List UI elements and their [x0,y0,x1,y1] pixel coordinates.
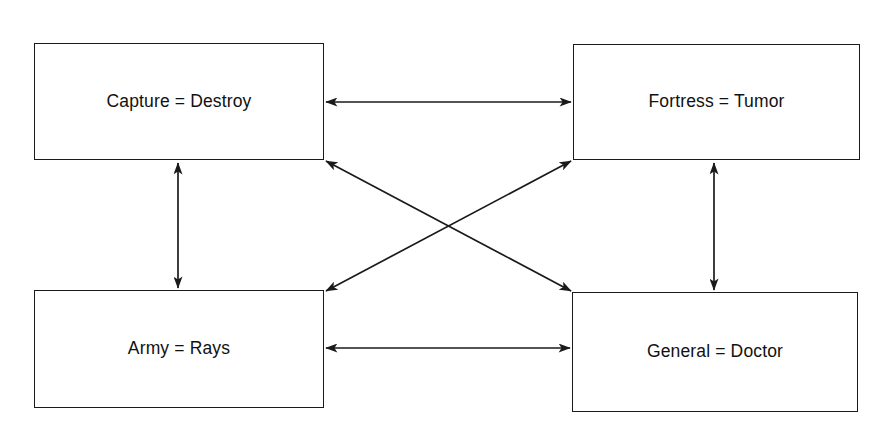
node-label-army-rays: Army = Rays [128,340,230,358]
node-label-general-doctor: General = Doctor [647,343,783,361]
node-label-fortress-tumor: Fortress = Tumor [648,93,784,111]
edge-diagonal-tr-bl [326,161,571,291]
node-army-rays: Army = Rays [34,290,324,408]
analogy-mapping-diagram: Capture = Destroy Fortress = Tumor Army … [0,0,886,437]
edge-diagonal-tl-br [326,161,571,291]
node-label-capture-destroy: Capture = Destroy [106,93,251,111]
node-capture-destroy: Capture = Destroy [34,43,324,160]
node-fortress-tumor: Fortress = Tumor [573,44,860,160]
node-general-doctor: General = Doctor [572,292,858,412]
